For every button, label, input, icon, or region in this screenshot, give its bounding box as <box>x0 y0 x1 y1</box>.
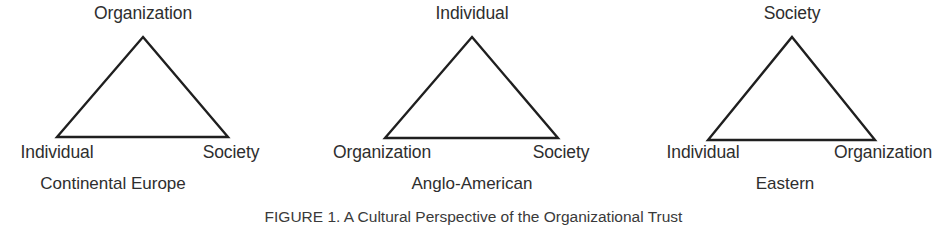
panel-caption-anglo-american: Anglo-American <box>412 173 533 194</box>
vertex-label-base-right: Society <box>533 142 590 162</box>
panel-caption-continental-europe: Continental Europe <box>40 173 186 194</box>
triangle-panel-eastern: Society Individual Organization Eastern <box>645 0 947 200</box>
vertex-label-apex: Society <box>764 3 821 23</box>
triangle-panel-continental-europe: Organization Individual Society Continen… <box>0 0 300 200</box>
vertex-label-base-right: Organization <box>834 142 932 162</box>
triangle-outline <box>57 37 228 137</box>
vertex-label-base-left: Organization <box>333 142 431 162</box>
vertex-label-base-left: Individual <box>21 142 94 162</box>
vertex-label-apex: Individual <box>436 3 509 23</box>
panel-caption-eastern: Eastern <box>756 173 815 194</box>
figure-container: Organization Individual Society Continen… <box>0 0 947 227</box>
triangle-outline <box>385 37 558 138</box>
triangle-outline <box>708 37 875 140</box>
vertex-label-base-right: Society <box>203 142 260 162</box>
figure-caption: FIGURE 1. A Cultural Perspective of the … <box>0 207 947 227</box>
triangle-panel-anglo-american: Individual Organization Society Anglo-Am… <box>320 0 620 200</box>
vertex-label-base-left: Individual <box>667 142 740 162</box>
vertex-label-apex: Organization <box>94 3 192 23</box>
